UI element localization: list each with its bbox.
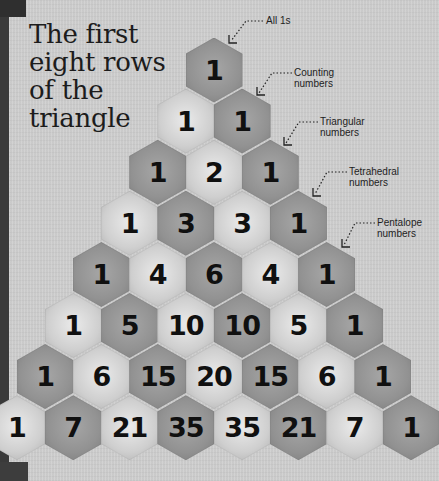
annotation-tetrahedral-numbers: Tetrahedral numbers <box>349 166 399 188</box>
pascal-triangle-figure: The first eight rows of the triangle 111… <box>0 0 439 481</box>
annotation-triangular-numbers: Triangular numbers <box>320 116 365 138</box>
dotted-arrow-icon <box>344 223 375 245</box>
annotation-arrows <box>0 0 439 481</box>
dotted-arrow-icon <box>315 172 347 194</box>
arrowhead-icon <box>257 87 265 95</box>
annotation-all-ones: All 1s <box>266 15 290 26</box>
annotation-pentalope-numbers: Pentalope numbers <box>377 217 422 239</box>
annotation-counting-numbers: Counting numbers <box>294 67 334 89</box>
dotted-arrow-icon <box>259 73 292 93</box>
dotted-arrow-icon <box>286 122 318 143</box>
dotted-arrow-icon <box>231 21 263 41</box>
arrowhead-icon <box>284 137 292 145</box>
